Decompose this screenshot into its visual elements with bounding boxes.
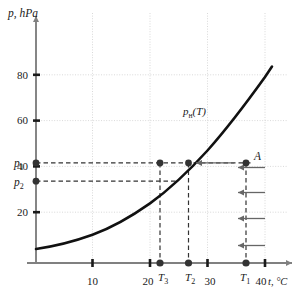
point-p1-axis	[33, 160, 40, 167]
x-axis-title: t, °C	[268, 276, 288, 287]
x-tick-label-40: 40	[256, 275, 268, 287]
point-p2-axis	[33, 178, 40, 185]
cooling-arrows	[196, 163, 265, 246]
x-tick-label-30: 30	[205, 275, 217, 287]
label-point-A: A	[253, 150, 262, 162]
point-isobar-T3	[157, 160, 164, 167]
y-tick-label-60: 60	[17, 114, 29, 126]
y-tick-label-80: 80	[17, 69, 29, 81]
label-T3: T3	[158, 271, 168, 286]
label-p2: p2	[13, 176, 24, 191]
y-tick-label-20: 20	[17, 206, 29, 218]
label-saturation-curve: pн(T)	[182, 105, 206, 120]
label-T2: T2	[185, 271, 195, 286]
y-axis-title: p, hPa	[7, 7, 38, 20]
x-tick-label-10: 10	[87, 275, 99, 287]
gridlines-vertical	[93, 13, 266, 263]
point-A	[243, 160, 250, 167]
label-T1: T1	[240, 271, 250, 286]
point-curve-T2	[185, 160, 192, 167]
x-tick-label-20: 20	[143, 275, 155, 287]
vapor-pressure-chart: p, hPa t, °C 20 40 60 80 10 20 30 40 p1 …	[0, 0, 302, 300]
saturation-curve	[36, 67, 272, 250]
figure-container: p, hPa t, °C 20 40 60 80 10 20 30 40 p1 …	[0, 0, 302, 300]
point-axis-T1	[242, 259, 249, 266]
data-points	[33, 160, 250, 267]
point-axis-T2	[185, 259, 192, 266]
point-axis-T3	[156, 259, 163, 266]
